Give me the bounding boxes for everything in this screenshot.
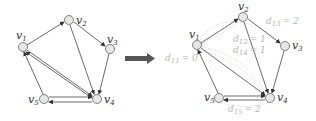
edge-v1-v2	[27, 22, 64, 45]
node-v2	[65, 16, 74, 25]
label-d14: d14= 1	[233, 45, 266, 57]
label-v2: v2	[238, 0, 249, 14]
label-v2: v2	[76, 14, 87, 28]
label-v1: v1	[189, 28, 200, 42]
edge-v2-v4	[70, 25, 94, 94]
left-labels: v1 v2 v3 v4 v5	[16, 14, 118, 107]
edge-v1-v4	[27, 50, 92, 96]
label-d11: d11= 0	[165, 53, 198, 65]
graph-diagram: v1 v2 v3 v4 v5 v1 v2 v3 v4	[0, 0, 316, 121]
node-v4	[266, 94, 275, 103]
node-v1	[19, 43, 28, 52]
label-v5: v5	[28, 93, 39, 107]
node-v5	[215, 94, 224, 103]
transform-arrow-icon	[125, 53, 155, 64]
label-v3: v3	[292, 39, 303, 53]
left-graph	[24, 22, 109, 102]
edge-v3-v4	[99, 54, 109, 94]
label-d13: d13= 2	[266, 16, 299, 28]
edge-v5-v1	[198, 50, 218, 93]
edge-v5-v1	[24, 52, 43, 94]
label-v5: v5	[204, 91, 215, 105]
node-v5	[40, 95, 49, 104]
right-graph	[198, 19, 284, 100]
edge-v3-v4	[272, 51, 284, 93]
node-v4	[93, 95, 102, 104]
label-v1: v1	[16, 29, 27, 43]
label-v3: v3	[107, 33, 118, 47]
label-d15: d15= 2	[228, 104, 261, 116]
label-v4: v4	[104, 93, 115, 107]
node-v3	[281, 42, 290, 51]
label-v4: v4	[277, 91, 288, 105]
